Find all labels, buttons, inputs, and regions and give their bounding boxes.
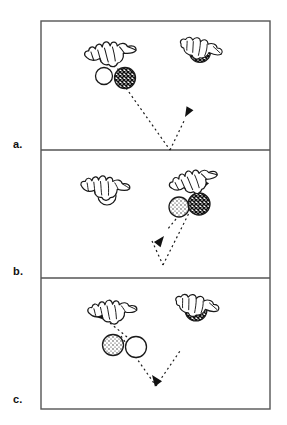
- figure-canvas: [0, 0, 287, 425]
- ball-dark-a: [115, 68, 136, 89]
- figure-root: a. b. c.: [0, 0, 287, 425]
- panel-label-a: a.: [13, 139, 23, 150]
- ball-dark-b: [188, 193, 210, 215]
- outer-border: [41, 21, 270, 409]
- ball-white-c: [126, 337, 147, 358]
- panel-label-b: b.: [13, 266, 23, 277]
- ball-stippled-c: [103, 335, 124, 356]
- ball-light-stippled-b: [169, 197, 189, 217]
- figure-frame: [41, 21, 270, 409]
- panel-label-c: c.: [13, 394, 23, 405]
- ball-white-a: [96, 68, 113, 85]
